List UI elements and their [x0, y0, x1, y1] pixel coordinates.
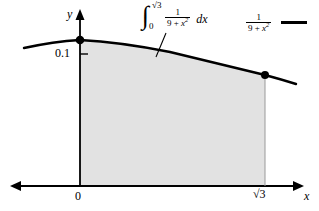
integrand-denominator: 9 + x2	[165, 18, 190, 28]
integrand-denominator-const: 9 +	[167, 18, 181, 28]
integral-lower-limit: 0	[149, 22, 154, 31]
shaded-area-region	[80, 40, 265, 186]
x-tick-label-sqrt3: √3	[253, 188, 266, 200]
integral-sign-group: ∫ √3 0	[142, 4, 162, 30]
curve-point-sqrt3	[261, 71, 269, 79]
x-axis-name-label: x	[304, 190, 309, 202]
integral-differential: dx	[196, 9, 207, 25]
legend-numerator: 1	[254, 12, 263, 22]
legend-fraction: 1 9 + x2	[246, 12, 271, 33]
legend-line-swatch	[281, 21, 307, 24]
x-axis-left-arrow-icon	[10, 181, 21, 191]
legend-denominator: 9 + x2	[246, 23, 271, 33]
legend: 1 9 + x2	[243, 12, 307, 33]
legend-denominator-const: 9 +	[248, 23, 262, 33]
curve-point-origin	[76, 36, 85, 45]
x-tick-label-zero: 0	[75, 190, 81, 202]
y-axis-up-arrow-icon	[76, 9, 85, 20]
integrand-denominator-exponent: 2	[185, 16, 188, 23]
legend-denominator-exponent: 2	[266, 21, 269, 28]
integrand-fraction: 1 9 + x2	[165, 7, 190, 28]
integral-expression: ∫ √3 0 1 9 + x2 dx	[142, 4, 208, 30]
y-tick-label-0-1: 0.1	[55, 47, 70, 59]
integral-upper-limit: √3	[152, 1, 161, 10]
x-axis-right-arrow-icon	[293, 181, 304, 191]
integrand-numerator: 1	[173, 7, 182, 17]
integral-area-figure: y x 0.1 0 √3 ∫ √3 0 1 9 + x2 dx 1 9 + x2	[0, 0, 319, 211]
y-axis-name-label: y	[67, 8, 72, 20]
